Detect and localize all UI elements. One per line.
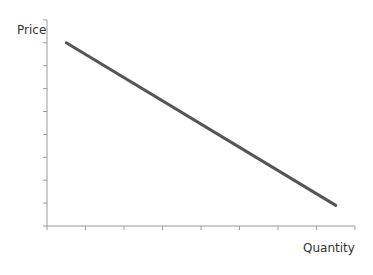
series <box>66 43 336 206</box>
demand-line <box>66 43 336 206</box>
axes <box>43 20 355 230</box>
demand-chart: Price Quantity <box>0 0 373 275</box>
x-axis-label: Quantity <box>303 241 355 255</box>
y-axis-label: Price <box>17 23 46 37</box>
